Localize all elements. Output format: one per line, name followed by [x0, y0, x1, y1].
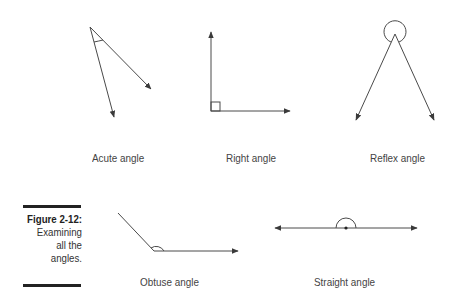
caption-line-1: Examining [19, 226, 82, 239]
caption-line-2: all the [19, 239, 82, 252]
obtuse-angle-label: Obtuse angle [140, 276, 199, 288]
caption-line-3: angles. [19, 252, 82, 265]
figure-caption: Figure 2-12: Examining all the angles. [10, 213, 82, 265]
acute-angle-label: Acute angle [92, 152, 144, 164]
caption-bottom-bar [23, 284, 81, 287]
reflex-angle-label: Reflex angle [370, 152, 425, 164]
straight-angle-label: Straight angle [314, 276, 375, 288]
right-angle-figure [211, 32, 290, 111]
straight-angle-figure [275, 218, 417, 230]
reflex-angle-figure [356, 21, 434, 120]
right-angle-label: Right angle [226, 152, 276, 164]
figure-number: Figure 2-12: [19, 213, 82, 226]
caption-top-bar [23, 205, 81, 208]
acute-angle-figure [90, 27, 151, 117]
obtuse-angle-figure [118, 213, 238, 251]
